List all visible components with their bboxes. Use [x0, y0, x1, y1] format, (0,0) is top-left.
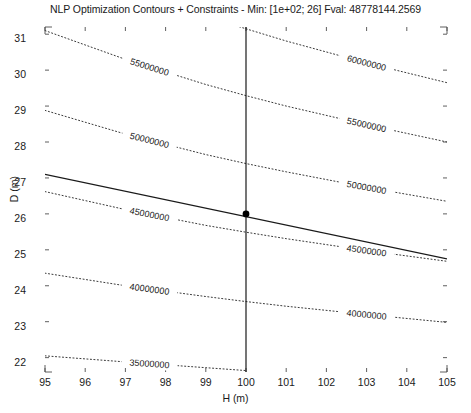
- svg-text:60000000: 60000000: [346, 53, 387, 73]
- svg-text:45000000: 45000000: [129, 206, 170, 224]
- svg-text:35000000: 35000000: [129, 357, 170, 370]
- plot-area: 3500000040000000400000004500000045000000…: [0, 0, 471, 413]
- figure-canvas: NLP Optimization Contours + Constraints …: [0, 0, 471, 413]
- svg-text:40000000: 40000000: [346, 308, 387, 322]
- svg-text:50000000: 50000000: [129, 131, 170, 151]
- svg-text:55000000: 55000000: [346, 116, 387, 134]
- minimum-marker: [243, 210, 250, 217]
- svg-text:50000000: 50000000: [346, 179, 387, 196]
- svg-text:55000000: 55000000: [129, 56, 170, 77]
